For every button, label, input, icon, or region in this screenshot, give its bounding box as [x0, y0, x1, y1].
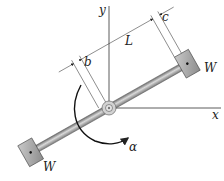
pivot-pin	[108, 107, 110, 109]
dimension-label-c: c	[162, 10, 169, 24]
y-axis-label: y	[98, 3, 106, 17]
x-axis-label: x	[212, 108, 219, 122]
dimension-label-b: b	[84, 55, 92, 69]
dim-line-b-left	[59, 64, 74, 72]
diagram-canvas: y x W W b L c α	[0, 0, 224, 181]
dimension-label-L: L	[124, 34, 133, 48]
weight-label-upper: W	[204, 61, 218, 75]
dim-line-L	[81, 19, 152, 59]
weight-label-lower: W	[43, 160, 57, 174]
angular-acceleration-label: α	[129, 140, 137, 154]
